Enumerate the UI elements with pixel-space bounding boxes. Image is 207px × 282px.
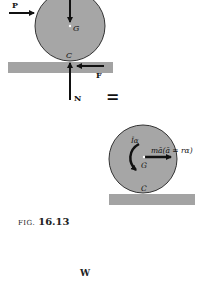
center-point-G [69,25,71,27]
kinetic-diagram: Īα mā(ā = rα) G C [109,125,195,205]
equals-sign: = [106,87,119,106]
label-inertia: mā(ā = rα) [151,146,193,155]
label-P: P [12,0,18,10]
figure-caption: FIG.16.13 [18,216,70,227]
caption-number: 16.13 [38,216,69,227]
disk-2 [109,125,177,193]
label-moment: Īα [130,136,139,145]
figure-canvas: G P C N F = Īα mā(ā = rα) G C [0,0,207,282]
label-W: W [80,268,90,278]
label-C: C [66,51,72,60]
label-F: F [96,70,102,80]
center-point-G-2 [143,156,145,158]
caption-prefix: FIG. [18,219,35,227]
ground-surface-2 [109,194,195,205]
label-G: G [73,24,80,33]
label-G-2: G [141,161,147,170]
label-C-2: C [141,184,147,193]
free-body-diagram: G P C N F [8,0,113,103]
label-N: N [74,93,81,103]
